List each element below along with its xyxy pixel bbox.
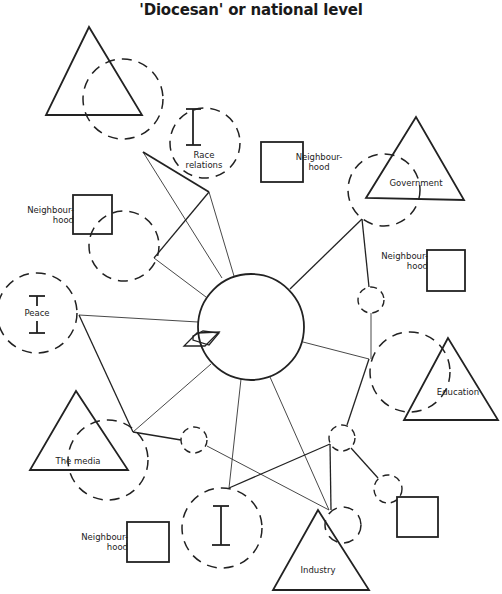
neighbourhood-bottom-label: Neighbour- hood <box>72 532 128 552</box>
neighbourhood-label-line1: Neighbour- <box>372 251 428 261</box>
network-diagram <box>0 0 502 594</box>
neighbourhood-label-line1: Neighbour- <box>20 205 74 215</box>
neighbourhood-label-line1: Neighbour- <box>293 152 345 162</box>
industry-dashed-circle <box>325 507 361 543</box>
neighbourhood-label-line2: hood <box>293 162 345 172</box>
small-dashed-circle-right <box>358 287 384 313</box>
small-dashed-circle-left <box>181 427 207 453</box>
race-relations-label-line2: relations <box>179 160 229 170</box>
neighbourhood-left-label: Neighbour- hood <box>20 205 74 225</box>
neighbourhood-left-dashed-circle <box>89 211 159 281</box>
education-triangle <box>404 338 498 420</box>
small-dashed-circle-centre-right <box>329 425 355 451</box>
industry-label: Industry <box>293 565 343 575</box>
race-relations-label-line1: Race <box>179 150 229 160</box>
ibeam-icon <box>212 506 230 545</box>
bottom-centre-dashed-circle <box>182 488 262 568</box>
education-label: Education <box>430 387 486 397</box>
neighbourhood-right-label: Neighbour- hood <box>372 251 428 271</box>
race-relations-label: Race relations <box>179 150 229 170</box>
neighbourhood-top-label: Neighbour- hood <box>293 152 345 172</box>
neighbourhood-label-line2: hood <box>72 542 128 552</box>
peace-label: Peace <box>17 308 57 318</box>
the-media-label: The media <box>48 456 108 466</box>
government-dashed-circle <box>348 154 420 226</box>
neighbourhood-right-square <box>427 250 465 291</box>
connection-lines <box>79 152 378 510</box>
industry-triangle <box>273 510 369 590</box>
neighbourhood-bottom-square <box>127 522 169 562</box>
neighbourhood-label-line2: hood <box>372 261 428 271</box>
top-left-dashed-circle <box>83 59 163 139</box>
neighbourhood-left-square <box>73 195 112 234</box>
neighbourhood-label-line1: Neighbour- <box>72 532 128 542</box>
education-dashed-circle <box>370 332 450 412</box>
ibeam-icon <box>186 109 201 145</box>
central-circle <box>198 274 304 380</box>
neighbourhood-label-line2: hood <box>20 215 74 225</box>
bottom-right-square <box>397 497 438 537</box>
government-label: Government <box>380 178 452 188</box>
